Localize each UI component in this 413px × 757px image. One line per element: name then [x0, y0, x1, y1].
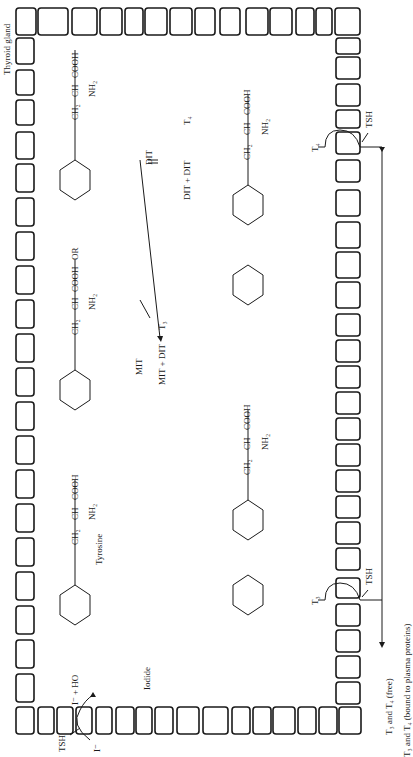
tyrosine-nh2: NH₂: [87, 504, 97, 520]
mit-ch2: CH₂: [70, 319, 80, 335]
thyroid-gland-label: Thyroid gland: [2, 23, 12, 75]
t3-release-label: T₃: [310, 596, 320, 605]
t4-ch2: CH₂: [242, 144, 252, 160]
mit-cooh: COOH: [70, 266, 80, 292]
free-hormone-label: T₃ and T₄ (free): [384, 678, 394, 735]
dit-plus-dit: DIT + DIT: [182, 160, 192, 200]
mit-label: MIT: [134, 358, 144, 375]
mit-plus-dit: MIT + DIT: [157, 344, 167, 385]
molecule-rings: [60, 50, 263, 625]
dit-ch: CH: [70, 84, 80, 97]
tsh-t3-label: TSH: [364, 567, 374, 585]
dit-cooh: COOH: [70, 52, 80, 78]
dit-nh2: NH₂: [87, 81, 97, 97]
iodide-label: Iodide: [142, 667, 152, 690]
iodide-plus-label: I⁻ + HO: [70, 674, 80, 705]
tyrosine-cooh: COOH: [70, 474, 80, 500]
t4-nh2: NH₂: [260, 119, 270, 135]
t4-release-label: T₄: [310, 143, 320, 152]
dit-label: DIT: [144, 150, 154, 165]
mit-nh2: NH₂: [87, 294, 97, 310]
tyrosine-ch: CH: [70, 507, 80, 520]
tsh-t4-label: TSH: [364, 110, 374, 128]
t3-nh2: NH₂: [260, 434, 270, 450]
t4-ch: CH: [242, 122, 252, 135]
t4-cooh: COOH: [242, 89, 252, 115]
iodide-ion-label: I⁻: [92, 744, 102, 752]
dit-ch2: CH₂: [70, 104, 80, 120]
t4-product: T₄: [182, 116, 192, 125]
t3-ch2: CH₂: [242, 459, 252, 475]
thyroid-hormone-diagram: Thyroid gland Iodide Tyrosine I⁻ + HO TS…: [0, 0, 413, 757]
t3-ch: CH: [242, 437, 252, 450]
tyrosine-ch2: CH₂: [70, 529, 80, 545]
or-label: OR: [70, 247, 80, 260]
tyrosine-label: Tyrosine: [94, 534, 104, 565]
bound-hormone-label: T₃ and T₄ (bound to plasma proteins): [402, 623, 412, 757]
mit-ch: CH: [70, 297, 80, 310]
t3-product: T₃: [157, 321, 167, 330]
tsh-label: TSH: [57, 734, 67, 752]
t3-cooh: COOH: [242, 404, 252, 430]
